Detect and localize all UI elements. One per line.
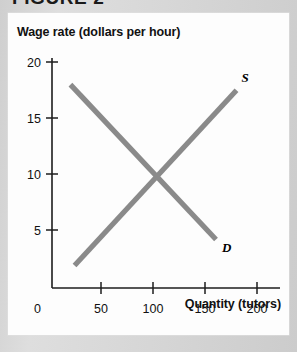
y-tick-label-0: 0 [34,302,41,316]
chart-plot-area: 20 15 10 5 0 50 100 150 200 S D [8,13,289,335]
figure-panel: Wage rate (dollars per hour) Quantity (t… [8,13,289,335]
x-tick-label-150: 150 [195,302,216,316]
supply-curve-label: S [242,70,249,85]
figure-title: FIGURE 2 [12,0,104,9]
y-tick-label-10: 10 [27,168,41,182]
x-tick-label-50: 50 [94,302,108,316]
demand-curve-label: D [221,240,232,255]
y-tick-label-5: 5 [34,224,41,238]
x-tick-label-100: 100 [143,302,164,316]
x-tick-label-200: 200 [247,302,268,316]
y-tick-label-15: 15 [27,112,41,126]
y-tick-label-20: 20 [27,56,41,70]
demand-curve [70,85,216,240]
page-background: FIGURE 2 Wage rate (dollars per hour) Qu… [0,0,297,352]
